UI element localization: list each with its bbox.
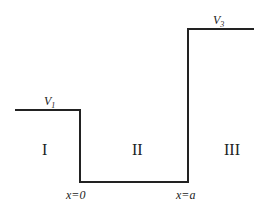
boundary-label-xa: x=a xyxy=(176,188,195,203)
region-label-3: III xyxy=(224,141,240,159)
potential-profile xyxy=(0,0,261,211)
region-label-2: II xyxy=(132,141,143,159)
boundary-label-x0: x=0 xyxy=(66,188,85,203)
region-label-1: I xyxy=(42,141,47,159)
potential-label-left: V1 xyxy=(44,94,55,110)
potential-label-right: V3 xyxy=(213,13,224,29)
potential-subscript: 3 xyxy=(220,20,224,29)
potential-subscript: 1 xyxy=(51,101,55,110)
